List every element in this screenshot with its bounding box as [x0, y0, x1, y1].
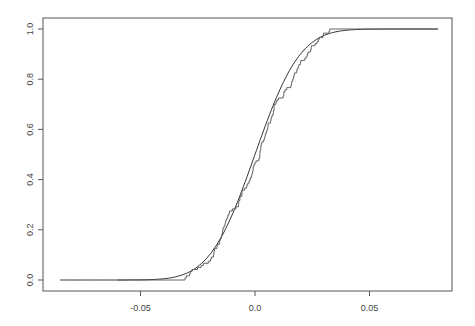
y-tick-label: 0.8: [25, 73, 35, 86]
y-tick-label: 1.0: [25, 23, 35, 36]
y-tick-label: 0.4: [25, 173, 35, 186]
cdf-plot: -0.050.00.05 0.00.20.40.60.81.0: [0, 0, 475, 326]
y-tick-label: 0.0: [25, 274, 35, 287]
y-tick-label: 0.6: [25, 123, 35, 136]
y-axis: 0.00.20.40.60.81.0: [25, 23, 43, 287]
x-tick-label: 0.0: [249, 303, 262, 313]
x-tick-label: -0.05: [130, 303, 151, 313]
empirical-cdf-line: [118, 29, 439, 280]
x-axis: -0.050.00.05: [130, 291, 378, 313]
x-tick-label: 0.05: [361, 303, 379, 313]
plot-frame: [43, 18, 452, 291]
y-tick-label: 0.2: [25, 224, 35, 237]
smooth-cdf-line: [60, 29, 437, 280]
